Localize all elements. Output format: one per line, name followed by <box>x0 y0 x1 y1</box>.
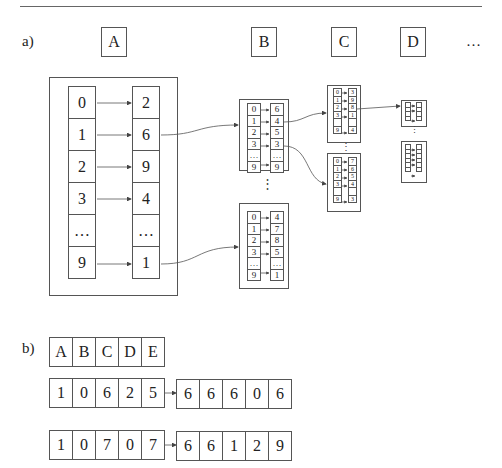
cell: 0 <box>72 430 96 460</box>
header-cell: C <box>95 337 119 367</box>
cell: 9 <box>268 431 292 461</box>
example-1-output: 6 6 6 0 6 <box>176 379 292 409</box>
header-row: A B C D E <box>49 337 165 367</box>
cell: 1 <box>49 430 73 460</box>
cell: 1 <box>49 378 73 408</box>
header-cell: D <box>118 337 142 367</box>
example-1-input: 1 0 6 2 5 <box>49 378 165 408</box>
cell: 0 <box>118 430 142 460</box>
header-cell: A <box>49 337 73 367</box>
cell: 0 <box>245 379 269 409</box>
cell: 5 <box>141 378 165 408</box>
example-2-output: 6 6 1 2 9 <box>176 431 292 461</box>
cell: 0 <box>72 378 96 408</box>
cell: 6 <box>176 431 200 461</box>
cell: 2 <box>118 378 142 408</box>
header-cell: E <box>141 337 165 367</box>
header-cell: B <box>72 337 96 367</box>
cell: 6 <box>95 378 119 408</box>
cell: 6 <box>176 379 200 409</box>
cell: 2 <box>245 431 269 461</box>
cell: 6 <box>268 379 292 409</box>
cell: 6 <box>199 431 223 461</box>
part-b-label: b) <box>22 340 35 357</box>
cell: 1 <box>222 431 246 461</box>
cell: 6 <box>222 379 246 409</box>
cell: 7 <box>95 430 119 460</box>
cell: 7 <box>141 430 165 460</box>
cell: 6 <box>199 379 223 409</box>
example-2-input: 1 0 7 0 7 <box>49 430 165 460</box>
